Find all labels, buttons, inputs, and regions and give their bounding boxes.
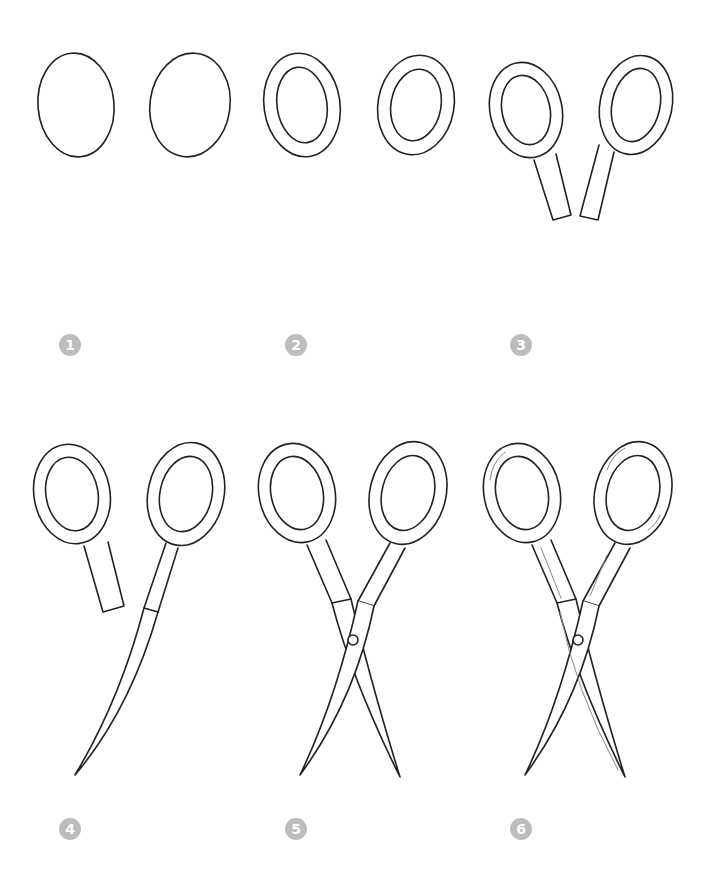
step-5-drawing (249, 433, 457, 777)
step-2-drawing (257, 48, 462, 162)
scissors-drawing-steps (0, 0, 713, 877)
step-badge-2: 2 (285, 334, 307, 356)
step-1-drawing (34, 48, 237, 162)
step-3-drawing (481, 49, 682, 220)
step-badge-4: 4 (59, 818, 81, 840)
step-badge-5: 5 (285, 818, 307, 840)
step-4-drawing (26, 435, 234, 775)
step-badge-6: 6 (510, 818, 532, 840)
step-badge-1: 1 (59, 334, 81, 356)
step-badge-3: 3 (510, 334, 532, 356)
step-6-drawing (474, 433, 682, 777)
